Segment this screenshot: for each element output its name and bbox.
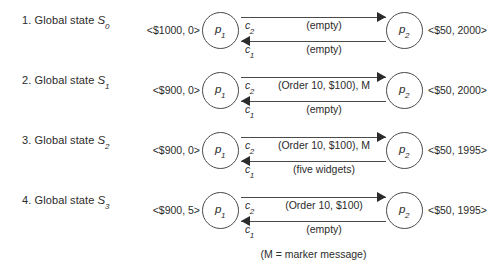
channel-c1-line <box>241 101 386 102</box>
row-number: 2. <box>22 74 31 86</box>
channel-c2-line <box>241 17 386 18</box>
row-caption: 4. Global state S3 <box>22 194 110 209</box>
process-1-label: p1 <box>203 83 238 98</box>
channel-c2-line <box>241 197 386 198</box>
row-caption: 2. Global state S1 <box>22 74 110 89</box>
process-node-p2: p2 <box>386 72 423 109</box>
global-state-row: 3. Global state S2 <$900, 0> p1 c2 c1 (O… <box>0 120 504 180</box>
process-2-state: <$50, 2000> <box>428 84 487 96</box>
channel-c2-line <box>241 77 386 78</box>
process-1-state: <$1000, 0> <box>147 24 200 36</box>
process-1-label: p1 <box>203 143 238 158</box>
channel-c1-line <box>241 41 386 42</box>
process-1-state: <$900, 5> <box>153 204 200 216</box>
channel-c2-line <box>241 137 386 138</box>
channel-c1-label: c1 <box>245 103 255 118</box>
row-caption-label: Global state <box>35 134 95 146</box>
process-1-label: p1 <box>203 203 238 218</box>
process-node-p2: p2 <box>386 192 423 229</box>
process-node-p2: p2 <box>386 12 423 49</box>
global-state-row: 4. Global state S3 <$900, 5> p1 c2 c1 (O… <box>0 180 504 240</box>
row-caption-label: Global state <box>35 74 95 86</box>
process-2-state: <$50, 1995> <box>428 144 487 156</box>
channel-c1-label: c1 <box>245 43 255 58</box>
state-subscript: 2 <box>105 142 110 151</box>
row-number: 3. <box>22 134 31 146</box>
process-2-state: <$50, 1995> <box>428 204 487 216</box>
state-subscript: 3 <box>105 202 110 211</box>
process-2-state: <$50, 2000> <box>428 24 487 36</box>
process-1-state: <$900, 0> <box>153 144 200 156</box>
channel-c1-content: (empty) <box>262 43 386 55</box>
row-number: 1. <box>22 14 31 26</box>
channel-c2-content: (Order 10, $100), M <box>262 139 386 151</box>
process-node-p1: p1 <box>202 192 239 229</box>
row-caption-label: Global state <box>35 14 95 26</box>
global-states-figure: 1. Global state S0 <$1000, 0> p1 c2 c1 (… <box>0 0 504 275</box>
process-2-label: p2 <box>387 83 422 98</box>
process-1-state: <$900, 0> <box>153 84 200 96</box>
process-node-p1: p1 <box>202 12 239 49</box>
row-caption: 3. Global state S2 <box>22 134 110 149</box>
channel-c2-content: (Order 10, $100) <box>262 199 386 211</box>
process-node-p2: p2 <box>386 132 423 169</box>
process-1-label: p1 <box>203 23 238 38</box>
channel-c2-content: (empty) <box>262 19 386 31</box>
channel-c1-label: c1 <box>245 223 255 238</box>
row-caption-label: Global state <box>35 194 95 206</box>
channel-c1-content: (five widgets) <box>262 163 386 175</box>
row-caption: 1. Global state S0 <box>22 14 110 29</box>
channel-c2-content: (Order 10, $100), M <box>262 79 386 91</box>
process-node-p1: p1 <box>202 72 239 109</box>
channel-c2-label: c2 <box>245 139 255 154</box>
process-2-label: p2 <box>387 143 422 158</box>
global-state-row: 1. Global state S0 <$1000, 0> p1 c2 c1 (… <box>0 0 504 60</box>
channel-c2-label: c2 <box>245 19 255 34</box>
process-node-p1: p1 <box>202 132 239 169</box>
channel-c1-label: c1 <box>245 163 255 178</box>
process-2-label: p2 <box>387 203 422 218</box>
process-2-label: p2 <box>387 23 422 38</box>
channel-c2-label: c2 <box>245 79 255 94</box>
channel-c1-line <box>241 161 386 162</box>
state-subscript: 1 <box>105 82 110 91</box>
channel-c1-line <box>241 221 386 222</box>
channel-c1-content: (empty) <box>262 223 386 235</box>
channel-c2-label: c2 <box>245 199 255 214</box>
figure-footnote: (M = marker message) <box>241 248 386 260</box>
state-subscript: 0 <box>105 22 110 31</box>
channel-c1-content: (empty) <box>262 103 386 115</box>
row-number: 4. <box>22 194 31 206</box>
global-state-row: 2. Global state S1 <$900, 0> p1 c2 c1 (O… <box>0 60 504 120</box>
